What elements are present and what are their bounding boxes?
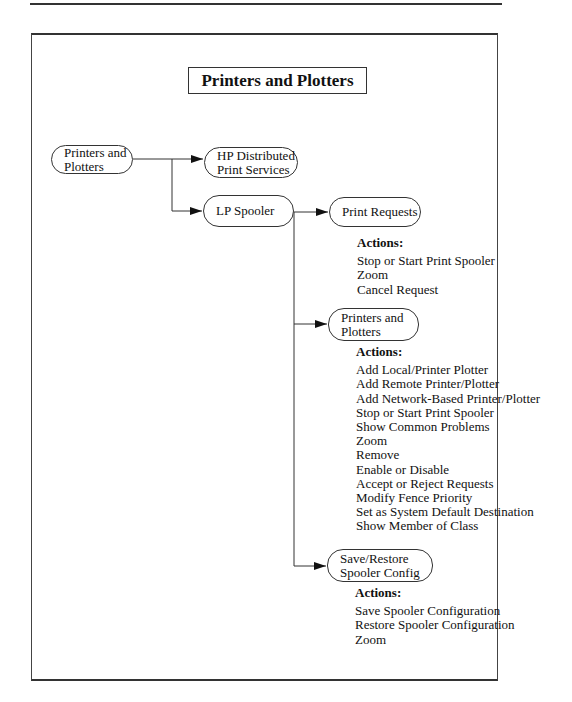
action-item: Add Remote Printer/Plotter [356,377,540,391]
actions-header: Actions: [355,586,515,600]
action-item: Stop or Start Print Spooler [356,406,540,420]
action-item: Zoom [357,268,495,282]
actions-print-requests: Actions: Stop or Start Print Spooler Zoo… [357,236,495,297]
node-lp-spooler: LP Spooler [203,195,294,227]
actions-header: Actions: [357,236,495,250]
node-printers-and-plotters: Printers and Plotters [328,308,419,341]
node-hp-distributed-print-services: HP Distributed Print Services [204,147,298,178]
action-item: Remove [356,448,540,462]
action-item: Set as System Default Destination [356,505,540,519]
node-printers-and-plotters-root: Printers and Plotters [51,145,133,174]
node-label: HP Distributed [217,149,297,163]
node-label: LP Spooler [216,204,293,218]
action-item: Cancel Request [357,283,495,297]
action-item: Enable or Disable [356,463,540,477]
node-label: Print Services [217,163,297,177]
node-label: Print Requests [342,205,420,219]
action-item: Show Common Problems [356,420,540,434]
node-label: Save/Restore [340,552,432,566]
action-item: Accept or Reject Requests [356,477,540,491]
action-item: Add Local/Printer Plotter [356,363,540,377]
actions-save-restore: Actions: Save Spooler Configuration Rest… [355,586,515,647]
action-item: Modify Fence Priority [356,491,540,505]
action-item: Zoom [355,633,515,647]
node-print-requests: Print Requests [329,197,421,227]
action-item: Restore Spooler Configuration [355,618,515,632]
node-label: Spooler Config [340,566,432,580]
action-item: Add Network-Based Printer/Plotter [356,392,540,406]
actions-printers-and-plotters: Actions: Add Local/Printer Plotter Add R… [356,345,540,534]
node-label: Printers and [64,146,132,160]
action-item: Stop or Start Print Spooler [357,254,495,268]
node-save-restore-spooler-config: Save/Restore Spooler Config [327,549,433,582]
node-label: Plotters [341,325,418,339]
node-label: Plotters [64,160,132,174]
node-label: Printers and [341,311,418,325]
action-item: Save Spooler Configuration [355,604,515,618]
action-item: Show Member of Class [356,519,540,533]
action-item: Zoom [356,434,540,448]
actions-header: Actions: [356,345,540,359]
